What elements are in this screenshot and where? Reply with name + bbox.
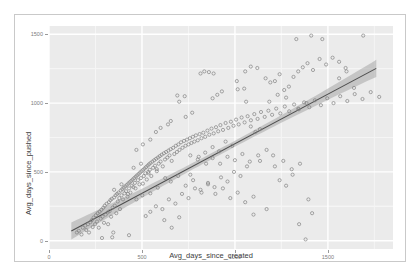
y-tick-label: 0 bbox=[15, 238, 43, 244]
y-tick-mark bbox=[45, 172, 48, 173]
scatter-plot: 050010001500050010001500 Avg_days_since_… bbox=[15, 15, 407, 263]
y-axis-title: Avg_days_since_pushed bbox=[24, 132, 33, 215]
chart-card: 050010001500050010001500 Avg_days_since_… bbox=[14, 14, 406, 262]
x-axis-title: Avg_days_since_created bbox=[15, 251, 407, 260]
screenshot-root: 050010001500050010001500 Avg_days_since_… bbox=[0, 0, 420, 280]
y-tick-mark bbox=[45, 103, 48, 104]
data-points-layer bbox=[49, 26, 393, 249]
y-tick-mark bbox=[45, 241, 48, 242]
plot-panel bbox=[49, 26, 393, 249]
y-tick-label: 1000 bbox=[15, 100, 43, 106]
y-tick-mark bbox=[45, 34, 48, 35]
y-tick-label: 1500 bbox=[15, 31, 43, 37]
cropped-caption-remnant bbox=[22, 0, 142, 8]
